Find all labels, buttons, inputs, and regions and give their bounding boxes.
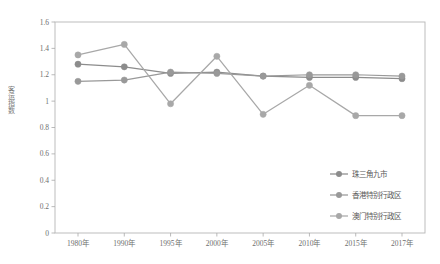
legend-label: 珠三角九市 [352, 169, 388, 179]
x-tick-label: 2015年 [345, 238, 368, 248]
y-tick-label: 1.2 [40, 70, 50, 79]
data-point [214, 53, 220, 59]
data-point [214, 70, 220, 76]
data-point [167, 101, 173, 107]
y-tick-label: 0.2 [40, 202, 50, 211]
x-tick-label: 2000年 [206, 238, 229, 248]
data-point [260, 73, 266, 79]
legend-label: 香港特别行政区 [352, 190, 402, 200]
x-tick-label: 2017年 [391, 238, 414, 248]
y-tick-label: 1.4 [40, 44, 50, 53]
data-point [121, 64, 127, 70]
y-axis-title: 客运指数 [8, 85, 16, 115]
y-tick-label: 0.8 [40, 123, 50, 132]
data-point [306, 82, 312, 88]
line-chart-container: 00.20.40.60.811.21.41.6 1980年1990年1995年2… [0, 0, 440, 264]
data-point [399, 73, 405, 79]
x-tick-label: 1980年 [67, 238, 90, 248]
data-point [353, 113, 359, 119]
data-point [260, 111, 266, 117]
y-tick-label: 1.6 [40, 18, 50, 27]
legend-label: 澳门特别行政区 [352, 211, 402, 221]
chart-canvas: 00.20.40.60.811.21.41.6 1980年1990年1995年2… [0, 0, 440, 264]
data-point [306, 72, 312, 78]
legend-marker [336, 192, 342, 198]
x-tick-label: 1995年 [160, 238, 183, 248]
y-tick-label: 1 [45, 97, 49, 106]
legend-marker [336, 213, 342, 219]
y-axis-tick-labels: 00.20.40.60.811.21.41.6 [40, 18, 50, 238]
y-tick-label: 0.4 [40, 176, 50, 185]
y-tick-label: 0.6 [40, 149, 50, 158]
data-point [167, 69, 173, 75]
data-point [121, 41, 127, 47]
data-point [75, 78, 81, 84]
x-tick-label: 1990年 [113, 238, 136, 248]
data-point [399, 113, 405, 119]
data-point [121, 77, 127, 83]
y-axis-title-text: 客运指数 [8, 85, 16, 115]
x-tick-label: 2005年 [252, 238, 275, 248]
data-point [353, 72, 359, 78]
x-tick-label: 2010年 [298, 238, 321, 248]
data-point [75, 61, 81, 67]
chart-background [0, 0, 440, 264]
y-tick-label: 0 [45, 229, 49, 238]
data-point [75, 52, 81, 58]
legend-marker [336, 171, 342, 177]
